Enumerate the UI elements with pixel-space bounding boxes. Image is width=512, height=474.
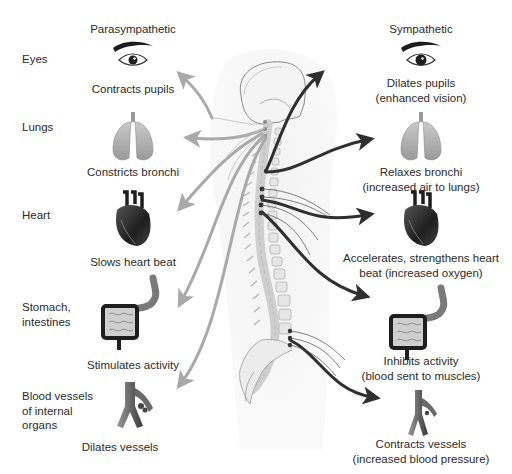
para-effect-eyes: Contracts pupils [92,82,174,96]
arrow-para-eyes [183,77,212,118]
para-effect-stomach: Stimulates activity [87,358,179,372]
digestive-tract-icon [391,288,444,360]
symp-effect-lungs: Relaxes bronchi(increased air to lungs) [363,165,480,194]
para-effect-heart: Slows heart beat [90,255,176,269]
symp-effect-stomach: Inhibits activity(blood sent to muscles) [362,354,481,383]
skull [240,62,305,124]
header-parasympathetic: Parasympathetic [90,22,176,36]
lungs-icon [401,112,441,160]
symp-effect-eyes: Dilates pupils(enhanced vision) [376,76,467,105]
digestive-tract-icon [103,278,156,350]
heart-icon [116,192,151,246]
organ-label-stomach-intestines: Stomach,intestines [22,300,71,329]
blood-vessel-icon [117,382,153,428]
symp-effect-vessels: Contracts vessels(increased blood pressu… [353,437,490,466]
symp-effect-heart: Accelerates, strengthens heartbeat (incr… [343,251,499,280]
para-effect-vessels: Dilates vessels [82,440,159,454]
organ-label-lungs: Lungs [22,120,53,134]
eye-icon [113,42,153,66]
blood-vessel-icon [408,390,437,436]
lungs-icon [113,112,153,160]
eye-icon [401,42,441,66]
organ-label-eyes: Eyes [22,52,48,66]
para-effect-lungs: Constricts bronchi [87,165,179,179]
header-sympathetic: Sympathetic [389,22,452,36]
organ-label-heart: Heart [22,208,50,222]
heart-icon [404,192,439,246]
organ-label-blood-vessels: Blood vesselsof internalorgans [22,389,93,433]
